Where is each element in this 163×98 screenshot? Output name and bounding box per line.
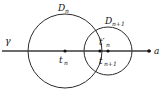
label-tn-prime-subscript: n (106, 41, 110, 48)
point-a-marker (147, 49, 150, 52)
label-dn: D (57, 3, 65, 13)
label-tn1: t (99, 56, 103, 66)
label-tn: t (59, 55, 63, 65)
diagram-canvas: γ a D n D n+1 t n t n+1 t′ n (0, 0, 163, 98)
figure-container: γ a D n D n+1 t n t n+1 t′ n (0, 0, 163, 98)
point-tn1-marker (106, 49, 109, 52)
label-a: a (154, 46, 159, 56)
label-dn1-subscript: n+1 (112, 20, 125, 27)
label-tn-subscript: n (64, 59, 68, 66)
point-tn-prime-marker (98, 49, 101, 52)
point-tn-marker (63, 49, 66, 52)
label-tn-prime: t′ (99, 37, 105, 47)
label-dn1: D (104, 16, 112, 26)
label-dn-subscript: n (65, 7, 69, 14)
label-tn1-subscript: n+1 (104, 60, 117, 67)
label-gamma: γ (5, 35, 11, 46)
